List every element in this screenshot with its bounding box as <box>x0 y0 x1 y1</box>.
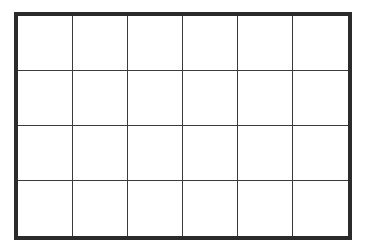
grid-cell <box>128 181 183 236</box>
grid-cell <box>73 126 128 181</box>
grid-cell <box>293 71 348 126</box>
grid-cell <box>128 71 183 126</box>
grid-cell <box>293 126 348 181</box>
grid-cell <box>293 16 348 71</box>
grid-cell <box>73 181 128 236</box>
grid-cell <box>183 181 238 236</box>
grid-cell <box>73 71 128 126</box>
grid-cell <box>18 16 73 71</box>
grid-cell <box>128 16 183 71</box>
grid-cell <box>128 126 183 181</box>
grid-cell <box>238 126 293 181</box>
grid-cell <box>183 126 238 181</box>
grid-cell <box>293 181 348 236</box>
grid-cell <box>73 16 128 71</box>
grid-cell <box>183 71 238 126</box>
grid-cell <box>238 16 293 71</box>
grid-cell <box>18 126 73 181</box>
grid-cell <box>183 16 238 71</box>
grid-cell <box>238 71 293 126</box>
grid-diagram <box>14 12 352 240</box>
grid-cell <box>238 181 293 236</box>
grid-cell <box>18 181 73 236</box>
grid-cell <box>18 71 73 126</box>
